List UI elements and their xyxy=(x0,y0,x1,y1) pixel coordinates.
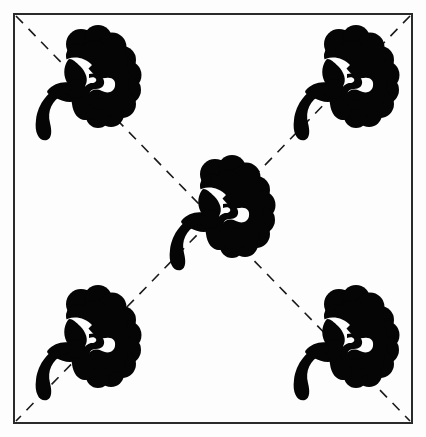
pattern-canvas xyxy=(0,0,426,437)
artboard: Symmetrical floral motif tile pattern xyxy=(0,0,426,437)
